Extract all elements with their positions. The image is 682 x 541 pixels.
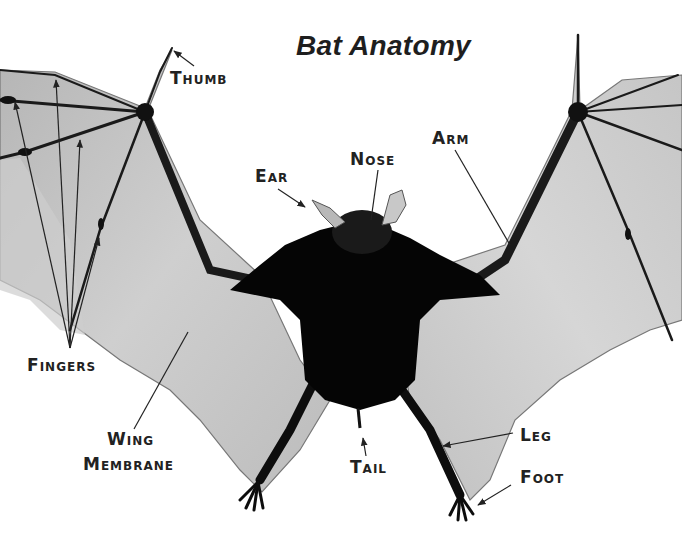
bat-anatomy-figure: Bat Anatomy THUMB EAR NOSE ARM FINGERS W…	[0, 0, 682, 541]
feet	[240, 482, 473, 520]
diagram-title: Bat Anatomy	[296, 30, 471, 62]
label-ear: EAR	[255, 168, 288, 185]
label-leg: LEG	[520, 427, 552, 444]
label-membrane: MEMBRANE	[83, 456, 174, 473]
left-ear	[312, 200, 345, 228]
right-ear	[382, 190, 406, 225]
bat-head	[332, 210, 392, 254]
label-foot: FOOT	[520, 469, 564, 486]
label-arm: ARM	[432, 130, 469, 147]
label-wing: WING	[107, 431, 154, 448]
label-tail: TAIL	[350, 459, 387, 476]
label-thumb: THUMB	[170, 70, 227, 87]
label-nose: NOSE	[350, 151, 395, 168]
label-fingers: FINGERS	[27, 357, 96, 374]
